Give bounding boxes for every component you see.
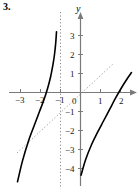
x-tick-label-2: 2 [119,96,124,106]
y-axis-label: y [75,3,81,14]
x-axis-arrow-icon [130,90,137,96]
y-tick-label-1: 1 [70,69,75,79]
curve-right-branch [81,73,131,176]
y-tick-label-3: 3 [70,31,75,41]
graph-plot: y −3 −2 −1 0 1 2 3 2 1 −1 −2 −3 −4 [0,0,139,191]
y-tick-label--4: −4 [65,164,75,174]
x-tick-label--1: −1 [55,95,65,105]
y-tick-label--2: −2 [65,126,75,136]
curve-left-branch [18,32,57,182]
y-tick-label--1: −1 [65,107,75,117]
y-tick-label--3: −3 [65,145,75,155]
y-tick-label-2: 2 [70,50,75,60]
x-tick-label--3: −3 [15,95,25,105]
figure-container: 3. y − [0,0,139,191]
x-tick-label-1: 1 [98,96,103,106]
x-tick-label-0: 0 [72,96,77,106]
